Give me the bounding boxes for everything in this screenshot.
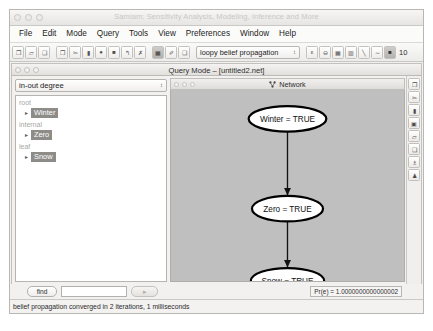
probability-evidence-value: Pr(e) = 1.0000000000000002 [310,286,402,297]
document-title: Query Mode – [untitled2.net] [12,66,421,75]
node-circle-icon[interactable]: ● [95,46,107,59]
layout-select-value: in-out degree [19,81,160,90]
network-panel-title: Network [279,80,305,89]
edit-table-icon[interactable]: ✐ [165,46,177,59]
menu-item-query[interactable]: Query [92,26,124,42]
menu-item-view[interactable]: View [153,26,181,42]
network-titlebar: Network [170,78,405,90]
algorithm-select-value: loopy belief propagation [200,48,293,57]
tree-group-label-leaf: leaf [18,142,166,151]
open-folder-icon[interactable]: ▱ [25,46,37,59]
cut-scissors-icon[interactable]: ✂ [408,91,420,103]
redo-arrow-icon[interactable]: ✗ [134,46,146,59]
zoom-level-value: 10 [397,48,407,57]
network-node-label: Snow = TRUE [262,277,314,282]
screen-icon[interactable]: ■ [384,46,396,59]
status-bar: belief propagation converged in 2 iterat… [10,299,423,313]
tree-item-label: Winter [31,108,58,118]
link-icon[interactable]: ∼ [371,46,383,59]
chevron-right-icon[interactable]: ▸ [23,108,29,118]
find-next-button[interactable]: ▸ [131,286,158,297]
find-bar: find ▸ Pr(e) = 1.0000000000000002 [11,284,422,299]
menu-item-window[interactable]: Window [235,26,274,42]
algorithm-select[interactable]: loopy belief propagation ↕ [196,46,300,59]
network-node-winter[interactable]: Winter = TRUE [249,106,327,132]
minus-circle-icon[interactable]: ⊖ [319,46,331,59]
network-side-toolbar: ❐ ✂ ▮ ▣ ▱ ❑ ♗ ♟ [406,76,421,284]
network-node-snow[interactable]: Snow = TRUE [251,268,324,282]
chevron-updown-icon: ↕ [293,50,296,55]
properties-icon[interactable]: ❑ [408,143,420,155]
network-node-label: Winter = TRUE [260,115,316,124]
node-square-icon[interactable]: ■ [108,46,120,59]
tree-group-label-root: root [18,98,166,107]
tree-item-winter[interactable]: ▸ Winter [18,107,166,120]
find-input[interactable] [61,286,127,297]
network-node-label: Zero = TRUE [263,205,312,214]
node-chance-icon[interactable]: ▮ [82,46,94,59]
chevron-right-icon[interactable]: ▸ [23,130,29,140]
clipboard-icon[interactable]: ❑ [178,46,190,59]
tree-item-zero[interactable]: ▸ Zero [18,129,166,142]
find-button[interactable]: find [27,286,57,297]
chevron-right-icon[interactable]: ▸ [23,152,29,162]
menu-item-file[interactable]: File [14,26,37,42]
tree-group-label-internal: internal [18,120,166,129]
chevron-updown-icon: ↕ [160,83,163,88]
grid-bars-icon[interactable]: ▥ [345,46,357,59]
monitor-icon[interactable]: ▦ [152,46,164,59]
document-window: Query Mode – [untitled2.net] in-out degr… [11,63,422,299]
network-node-zero[interactable]: Zero = TRUE [252,196,323,222]
undo-arrow-icon[interactable]: ↰ [121,46,133,59]
tree-item-snow[interactable]: ▸ Snow [18,151,166,164]
node-list-panel: in-out degree ↕ root ▸ Winter internal ▸… [12,76,169,284]
select-pointer-icon[interactable]: ❐ [408,78,420,90]
menu-item-preferences[interactable]: Preferences [181,26,235,42]
grid-table-icon[interactable]: ▦ [332,46,344,59]
menu-item-help[interactable]: Help [274,26,301,42]
window-titlebar: Samiam: Sensitivity Analysis, Modeling, … [10,10,423,26]
evidence-icon[interactable]: ε [306,46,318,59]
evidence-pin-icon[interactable]: ♟ [408,169,420,181]
delete-node-icon[interactable]: ▮ [408,104,420,116]
window-title: Samiam: Sensitivity Analysis, Modeling, … [10,12,423,21]
menu-item-mode[interactable]: Mode [61,26,91,42]
menu-item-edit[interactable]: Edit [37,26,61,42]
node-tree[interactable]: root ▸ Winter internal ▸ Zero leaf ▸ Sno… [15,95,167,282]
monitor-panel-icon[interactable]: ▣ [408,117,420,129]
cut-scissors-icon[interactable]: ✂ [69,46,81,59]
save-icon[interactable]: ❑ [38,46,50,59]
status-message: belief propagation converged in 2 iterat… [13,303,189,310]
network-graph-icon [269,81,276,88]
menu-bar: File Edit Mode Query Tools View Preferen… [10,26,423,43]
network-panel: Network [169,76,406,284]
application-window: Samiam: Sensitivity Analysis, Modeling, … [9,9,424,314]
main-toolbar: ❐ ▱ ❑ ❐ ✂ ▮ ● ■ ↰ ✗ ▦ ✐ ❑ loopy belief p… [10,43,423,62]
probability-icon[interactable]: ♗ [408,156,420,168]
new-file-icon[interactable]: ❐ [12,46,24,59]
tree-item-label: Zero [31,130,52,140]
sensitivity-icon[interactable]: ╲ [358,46,370,59]
copy-icon[interactable]: ❐ [56,46,68,59]
document-titlebar: Query Mode – [untitled2.net] [11,63,422,76]
network-graph: Winter = TRUE Zero = TRUE Snow = TRUE [171,90,404,282]
network-canvas[interactable]: Winter = TRUE Zero = TRUE Snow = TRUE [170,90,405,282]
label-tag-icon[interactable]: ▱ [408,130,420,142]
tree-item-label: Snow [31,152,56,162]
layout-select[interactable]: in-out degree ↕ [15,79,167,92]
menu-item-tools[interactable]: Tools [124,26,153,42]
document-body: in-out degree ↕ root ▸ Winter internal ▸… [11,76,422,284]
